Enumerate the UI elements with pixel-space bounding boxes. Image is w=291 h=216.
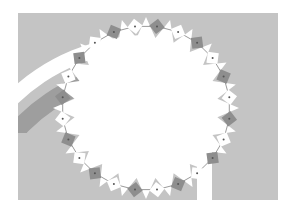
vertex-dot bbox=[156, 189, 158, 191]
vertex-dot bbox=[134, 25, 136, 27]
vertex-dot bbox=[177, 183, 179, 185]
vertex-dot bbox=[228, 118, 230, 120]
vertex-dot bbox=[228, 96, 230, 98]
diagram-stage bbox=[0, 0, 291, 216]
vertex-dot bbox=[212, 57, 214, 59]
star-gear-diagram bbox=[0, 0, 291, 216]
vertex-dot bbox=[113, 31, 115, 33]
vertex-dot bbox=[78, 57, 80, 59]
vertex-dot bbox=[223, 139, 225, 141]
vertex-dot bbox=[134, 189, 136, 191]
vertex-dot bbox=[94, 42, 96, 44]
vertex-dot bbox=[67, 76, 69, 78]
vertex-dot bbox=[94, 172, 96, 174]
vertex-dot bbox=[196, 172, 198, 174]
vertex-dot bbox=[212, 157, 214, 159]
vertex-dot bbox=[78, 157, 80, 159]
star-polygon bbox=[53, 17, 239, 199]
vertex-dot bbox=[196, 42, 198, 44]
vertex-dot bbox=[113, 183, 115, 185]
vertex-dot bbox=[177, 31, 179, 33]
vertex-dot bbox=[156, 25, 158, 27]
vertex-dot bbox=[67, 139, 69, 141]
vertex-dot bbox=[223, 76, 225, 78]
vertex-dot bbox=[62, 96, 64, 98]
vertex-dot bbox=[62, 118, 64, 120]
